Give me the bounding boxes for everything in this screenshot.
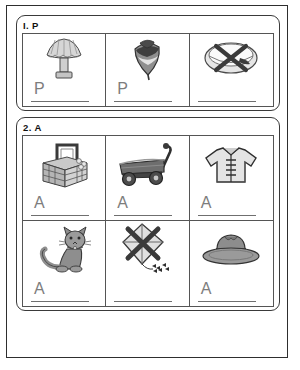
answer-shirt[interactable]: A: [198, 195, 258, 216]
writing-line: [198, 300, 256, 302]
writing-line: [114, 214, 172, 216]
answer-basket[interactable]: [198, 81, 258, 102]
cell-hat[interactable]: A: [190, 221, 273, 306]
writing-line: [31, 300, 89, 302]
cell-spinning-top[interactable]: P: [106, 34, 189, 106]
answer-hat[interactable]: A: [198, 281, 258, 302]
answer-cat[interactable]: A: [31, 281, 91, 302]
cell-shirt[interactable]: A: [190, 136, 273, 221]
writing-line: [114, 100, 172, 102]
answer-picnic-basket[interactable]: A: [31, 195, 91, 216]
shirt-icon: [190, 138, 273, 192]
answer-wagon[interactable]: A: [114, 195, 174, 216]
spinning-top-icon: [106, 36, 188, 81]
cell-kite[interactable]: [106, 221, 189, 306]
answer-letter: A: [198, 195, 258, 212]
answer-kite[interactable]: [114, 281, 174, 302]
cell-lamp[interactable]: P: [23, 34, 106, 106]
answer-letter: [114, 281, 174, 298]
answer-lamp[interactable]: P: [31, 81, 91, 102]
section-1: I. P P: [16, 15, 280, 111]
writing-line: [198, 100, 256, 102]
lamp-icon: [23, 36, 105, 81]
answer-letter: A: [114, 195, 174, 212]
section-2-grid: A: [22, 135, 274, 307]
cell-picnic-basket[interactable]: A: [23, 136, 106, 221]
basket-icon: [190, 36, 273, 81]
section-1-grid: P P: [22, 33, 274, 107]
answer-letter: [198, 81, 258, 98]
answer-letter: P: [31, 81, 91, 98]
writing-line: [114, 300, 172, 302]
writing-line: [31, 214, 89, 216]
writing-line: [198, 214, 256, 216]
section-1-heading: I. P: [23, 20, 39, 31]
worksheet-page: I. P P: [6, 5, 288, 358]
answer-letter: A: [198, 281, 258, 298]
cat-icon: [23, 223, 105, 277]
answer-spinning-top[interactable]: P: [114, 81, 174, 102]
answer-letter: A: [31, 195, 91, 212]
answer-letter: P: [114, 81, 174, 98]
section-2-heading: 2. A: [23, 122, 42, 133]
answer-letter: A: [31, 281, 91, 298]
kite-icon: [106, 223, 188, 277]
cell-cat[interactable]: A: [23, 221, 106, 306]
wagon-icon: [106, 138, 188, 192]
cell-wagon[interactable]: A: [106, 136, 189, 221]
cell-basket[interactable]: [190, 34, 273, 106]
picnic-basket-icon: [23, 138, 105, 192]
hat-icon: [190, 223, 273, 277]
writing-line: [31, 100, 89, 102]
section-2: 2. A: [16, 117, 280, 311]
